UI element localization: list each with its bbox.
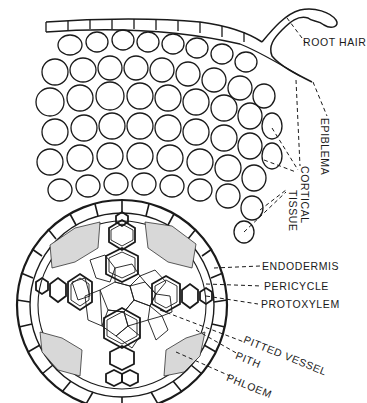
label-pericycle: PERICYCLE [264, 281, 329, 292]
label-root-hair: ROOT HAIR [303, 37, 367, 48]
label-cortical: CORTICAL [300, 166, 311, 224]
label-endodermis: ENDODERMIS [262, 261, 339, 272]
label-tissue: TISSUE [288, 190, 299, 232]
endodermis-cells [17, 200, 227, 403]
label-epiblema: EPIBLEMA [320, 118, 331, 175]
epidermal-cells [46, 19, 300, 76]
label-protoxylem: PROTOXYLEM [261, 299, 340, 310]
